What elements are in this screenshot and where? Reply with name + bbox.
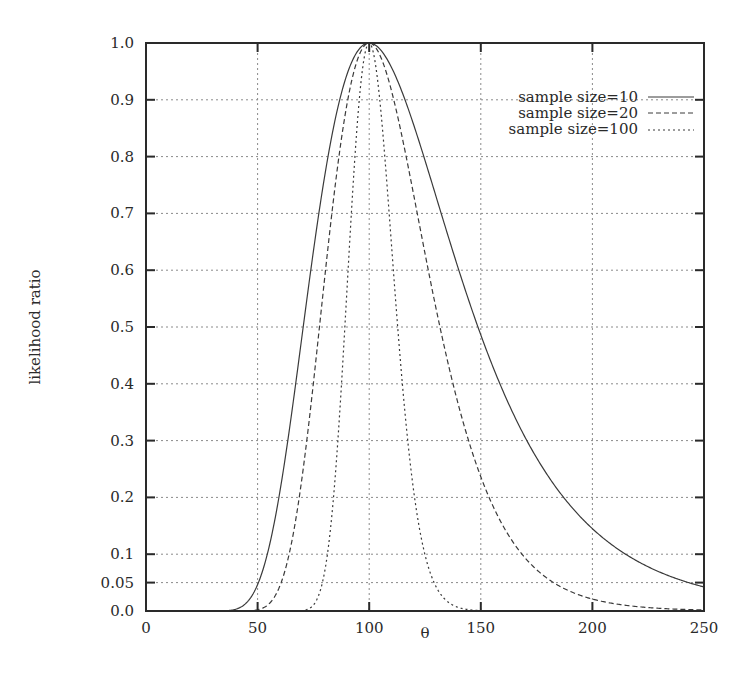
y-tick-label: 0.2 <box>110 488 134 506</box>
x-tick-label: 150 <box>466 619 495 637</box>
y-tick-label: 0.8 <box>110 148 134 166</box>
y-tick-label: 0.0 <box>110 602 134 620</box>
y-tick-label: 0.5 <box>110 318 134 336</box>
x-tick-label: 50 <box>248 619 267 637</box>
x-tick-label: 0 <box>141 619 151 637</box>
y-tick-label: 0.1 <box>110 545 134 563</box>
y-tick-label: 0.05 <box>101 574 134 592</box>
x-axis-label: θ <box>420 624 429 642</box>
y-tick-labels: 0.00.050.10.20.30.40.50.60.70.80.91.0 <box>101 34 134 620</box>
legend: sample size=10 sample size=20 sample siz… <box>509 88 694 138</box>
y-tick-label: 1.0 <box>110 34 134 52</box>
x-tick-label: 100 <box>355 619 384 637</box>
likelihood-ratio-chart: 0.00.050.10.20.30.40.50.60.70.80.91.0 05… <box>0 0 752 684</box>
y-tick-label: 0.4 <box>110 375 134 393</box>
x-tick-labels: 050100150200250 <box>141 619 718 637</box>
y-tick-label: 0.6 <box>110 261 134 279</box>
y-tick-label: 0.3 <box>110 432 134 450</box>
legend-item-n100: sample size=100 <box>509 120 694 138</box>
x-tick-label: 200 <box>578 619 607 637</box>
y-tick-label: 0.7 <box>110 204 134 222</box>
y-axis-label: likelihood ratio <box>26 269 44 384</box>
x-tick-label: 250 <box>690 619 719 637</box>
legend-label: sample size=100 <box>509 120 638 138</box>
y-tick-label: 0.9 <box>110 91 134 109</box>
